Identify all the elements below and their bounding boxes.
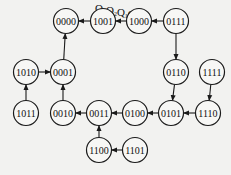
state-1010: 1010 xyxy=(14,60,39,85)
svg-text:1000: 1000 xyxy=(129,16,149,27)
state-1000: 1000 xyxy=(127,9,152,34)
svg-text:0011: 0011 xyxy=(89,108,109,119)
state-0011: 0011 xyxy=(87,101,112,126)
svg-text:1100: 1100 xyxy=(89,145,109,156)
svg-text:0010: 0010 xyxy=(53,108,73,119)
states: 0000100110000111101000010110111110110010… xyxy=(14,9,225,163)
svg-text:1111: 1111 xyxy=(203,67,222,78)
svg-text:0001: 0001 xyxy=(53,67,73,78)
svg-text:1010: 1010 xyxy=(16,67,36,78)
transition-0001-to-0000 xyxy=(64,34,66,60)
state-1101: 1101 xyxy=(123,138,148,163)
transition-0110-to-0101 xyxy=(173,84,175,100)
svg-text:1001: 1001 xyxy=(93,16,113,27)
state-1110: 1110 xyxy=(196,101,221,126)
state-0110: 0110 xyxy=(164,60,189,85)
svg-text:0111: 0111 xyxy=(166,16,185,27)
svg-text:0000: 0000 xyxy=(56,16,76,27)
state-0101: 0101 xyxy=(159,101,184,126)
state-1111: 1111 xyxy=(200,60,225,85)
state-0100: 0100 xyxy=(123,101,148,126)
svg-text:0100: 0100 xyxy=(125,108,145,119)
state-1011: 1011 xyxy=(14,101,39,126)
svg-text:0101: 0101 xyxy=(161,108,181,119)
svg-text:1011: 1011 xyxy=(16,108,36,119)
state-0010: 0010 xyxy=(51,101,76,126)
svg-text:1110: 1110 xyxy=(198,108,217,119)
state-0000: 0000 xyxy=(54,9,79,34)
state-1001: 1001 xyxy=(91,9,116,34)
state-0111: 0111 xyxy=(164,9,189,34)
svg-text:0110: 0110 xyxy=(166,67,186,78)
transition-1111-to-1110 xyxy=(209,84,211,100)
state-diagram: Q3Q2Q1Q0 0000100110000111101000010110111… xyxy=(0,0,231,175)
state-1100: 1100 xyxy=(87,138,112,163)
svg-text:1101: 1101 xyxy=(125,145,145,156)
transitions xyxy=(26,21,211,150)
state-0001: 0001 xyxy=(51,60,76,85)
